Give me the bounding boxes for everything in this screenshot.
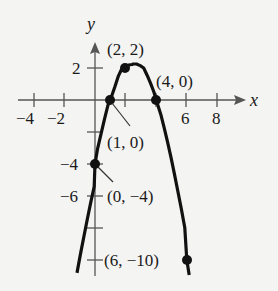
parabola-graph: y x −4 −2 6 8 2 −4 −6 (2, 2) (4, 0) (1, …: [0, 0, 278, 291]
point-label: (1, 0): [107, 133, 144, 152]
point-label: (2, 2): [107, 40, 144, 59]
x-tick-label: 6: [181, 109, 190, 128]
point-1-0: [105, 95, 115, 105]
point-2-2: [120, 63, 130, 73]
point-4-0: [151, 95, 161, 105]
point-label: (4, 0): [156, 72, 193, 91]
y-tick-label: −6: [60, 187, 78, 206]
point-6-m10: [182, 255, 192, 265]
x-tick-label: −4: [16, 109, 35, 128]
marked-points: [90, 63, 192, 265]
y-tick-label: 2: [72, 59, 81, 78]
y-axis-label: y: [85, 14, 95, 34]
point-label: (6, −10): [104, 251, 159, 270]
x-tick-label: 8: [212, 109, 221, 128]
y-tick-label: −4: [60, 155, 79, 174]
axes: [18, 48, 238, 276]
x-tick-label: −2: [47, 109, 65, 128]
point-label: (0, −4): [107, 187, 153, 206]
x-axis-label: x: [249, 90, 258, 110]
parabola-curve: [77, 64, 189, 275]
